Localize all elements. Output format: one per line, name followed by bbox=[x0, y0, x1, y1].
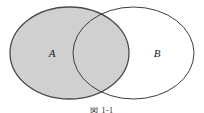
set-b-label: B bbox=[154, 47, 161, 59]
figure-caption: 図 1-1 bbox=[0, 107, 204, 113]
venn-diagram-figure: A B 図 1-1 bbox=[0, 0, 204, 113]
set-a-ellipse bbox=[10, 7, 129, 99]
set-a-label: A bbox=[48, 47, 56, 59]
venn-diagram-canvas: A B bbox=[0, 0, 204, 113]
figure-caption-strip: 図 1-1 bbox=[0, 107, 204, 113]
